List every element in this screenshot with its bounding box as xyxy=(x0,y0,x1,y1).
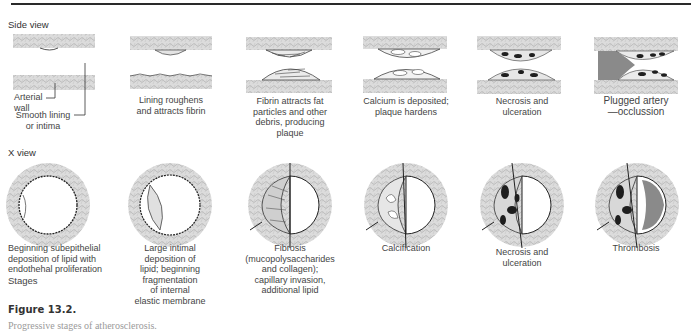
side-caption-3: Fibrin attracts fat particles and other … xyxy=(234,96,346,138)
side-caption-5: Necrosis and ulceration xyxy=(466,96,578,117)
side-panel-3 xyxy=(246,37,332,93)
x-view-label: X view xyxy=(8,147,36,158)
x-caption-3: Fibrosis (mucopolysaccharides and collag… xyxy=(234,243,346,296)
figure-title: Figure 13.2. xyxy=(8,304,76,315)
stages-label: Stages xyxy=(8,276,38,287)
x-caption-6: Thrombosis xyxy=(580,243,691,254)
x-caption-4: Calcification xyxy=(350,243,462,254)
annotation-smooth-lining: Smooth lining or intima xyxy=(8,110,78,131)
side-panel-5 xyxy=(477,36,561,94)
side-panel-6 xyxy=(594,37,678,94)
side-panel-2 xyxy=(130,36,212,89)
side-caption-2: Lining roughens and attracts fibrin xyxy=(115,95,227,116)
side-caption-6: Plugged artery —occlussion xyxy=(580,96,691,117)
side-caption-4: Calcium is deposited; plaque hardens xyxy=(350,96,462,117)
x-caption-5: Necrosis and ulceration xyxy=(466,247,578,268)
x-panel-6 xyxy=(595,163,679,248)
x-panel-2 xyxy=(128,163,212,247)
x-panel-5 xyxy=(480,163,564,248)
x-caption-2: Large intimal deposition of lipid; begin… xyxy=(114,243,226,306)
x-panel-3 xyxy=(248,163,332,248)
x-caption-1: Beginning subepithelial deposition of li… xyxy=(8,243,102,275)
x-panel-4 xyxy=(364,163,448,248)
figure-caption: Progressive stages of atherosclerosis. xyxy=(8,320,157,331)
side-panel-4 xyxy=(363,36,447,93)
x-panel-1 xyxy=(6,163,90,247)
